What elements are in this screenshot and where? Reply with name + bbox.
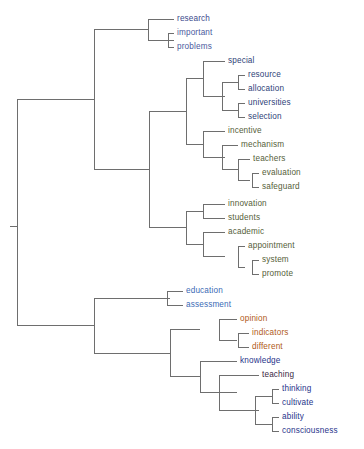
link-system-promote (252, 260, 259, 274)
link-upper-root (94, 30, 149, 170)
leaf-label-different: different (252, 343, 283, 351)
leaf-label-safeguard: safeguard (262, 183, 300, 191)
leaf-label-ability: ability (282, 413, 304, 421)
leaf-label-education: education (186, 287, 223, 295)
link-root (17, 99, 94, 325)
leaf-label-teachers: teachers (253, 155, 286, 163)
link-evaluation-safeguard (252, 173, 259, 187)
leaf-label-universities: universities (248, 99, 291, 107)
link-research-cluster (148, 19, 174, 40)
link-teachers-group (238, 159, 250, 180)
leaf-label-students: students (228, 214, 260, 222)
leaf-label-mechanism: mechanism (241, 141, 284, 149)
leaf-label-opinion: opinion (240, 315, 267, 323)
link-ability-consciousness (272, 417, 279, 431)
leaf-label-resource: resource (248, 71, 281, 79)
link-opinion-knowledge (170, 330, 200, 377)
leaf-label-evaluation: evaluation (262, 169, 301, 177)
link-thinking-cultivate (272, 389, 279, 403)
leaf-label-consciousness: consciousness (282, 427, 338, 435)
link-universities-selection (238, 103, 245, 117)
link-special-incentive (186, 79, 203, 145)
leaf-label-special: special (228, 57, 255, 65)
leaf-label-assessment: assessment (186, 301, 231, 309)
leaf-label-system: system (262, 256, 289, 264)
link-innovation-academic (186, 211, 203, 244)
leaf-label-incentive: incentive (228, 127, 262, 135)
leaf-label-cultivate: cultivate (282, 399, 313, 407)
leaf-label-selection: selection (248, 113, 282, 121)
leaf-label-thinking: thinking (282, 385, 311, 393)
link-group (10, 19, 279, 431)
link-resource-allocation (238, 75, 245, 89)
leaf-label-indicators: indicators (252, 329, 289, 337)
leaf-label-research: research (177, 15, 210, 23)
leaf-label-important: important (177, 29, 212, 37)
link-opinion-group (219, 319, 237, 340)
link-lower-root (94, 298, 170, 353)
link-academic-group (203, 232, 225, 257)
leaf-label-knowledge: knowledge (240, 357, 281, 365)
leaf-label-allocation: allocation (248, 85, 284, 93)
leaf-label-promote: promote (262, 270, 293, 278)
leaf-label-problems: problems (177, 43, 212, 51)
leaf-label-teaching: teaching (262, 371, 294, 379)
dendrogram-links (0, 0, 364, 449)
leaf-label-academic: academic (228, 228, 264, 236)
link-innovation-students (203, 204, 225, 218)
leaf-label-appointment: appointment (248, 242, 295, 250)
dendrogram-figure: researchimportantproblemsspecialresource… (0, 0, 364, 449)
link-indicators-different (238, 333, 249, 347)
link-upper-mid-cluster (149, 111, 186, 228)
leaf-label-innovation: innovation (228, 200, 267, 208)
link-appointment-group (238, 246, 245, 267)
